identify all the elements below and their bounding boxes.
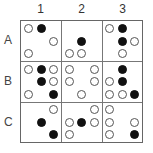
open-circle-icon [65,130,74,139]
filled-circle-icon [118,37,127,46]
filled-circle-icon [77,37,86,46]
open-circle-icon [130,37,139,46]
cell-a3 [102,21,143,62]
open-circle-icon [77,90,86,99]
open-circle-icon [65,118,74,127]
filled-circle-icon [49,130,58,139]
filled-circle-icon [37,65,46,74]
row-label-c: C [4,102,13,143]
filled-circle-icon [49,90,58,99]
open-circle-icon [49,77,58,86]
open-circle-icon [118,49,127,58]
cell-b3 [102,62,143,103]
filled-circle-icon [37,77,46,86]
cell-c1 [21,102,62,143]
cell-a2 [62,21,103,62]
open-circle-icon [105,24,114,33]
column-label-1: 1 [20,2,61,16]
cell-b1 [21,62,62,103]
open-circle-icon [105,130,114,139]
column-label-3: 3 [102,2,143,16]
open-circle-icon [118,90,127,99]
cell-a1 [21,21,62,62]
dot-grid [20,20,143,143]
filled-circle-icon [37,24,46,33]
open-circle-icon [24,24,33,33]
open-circle-icon [49,105,58,114]
open-circle-icon [65,65,74,74]
open-circle-icon [24,90,33,99]
row-label-a: A [4,20,12,61]
open-circle-icon [105,118,114,127]
filled-circle-icon [130,90,139,99]
open-circle-icon [90,77,99,86]
open-circle-icon [49,65,58,74]
filled-circle-icon [37,118,46,127]
open-circle-icon [49,37,58,46]
open-circle-icon [77,49,86,58]
open-circle-icon [90,118,99,127]
open-circle-icon [105,90,114,99]
open-circle-icon [90,65,99,74]
open-circle-icon [24,65,33,74]
filled-circle-icon [130,130,139,139]
open-circle-icon [105,105,114,114]
column-label-2: 2 [61,2,102,16]
open-circle-icon [90,105,99,114]
filled-circle-icon [118,24,127,33]
cell-b2 [62,62,103,103]
cell-c2 [62,102,103,143]
open-circle-icon [130,118,139,127]
row-label-b: B [4,61,12,102]
filled-circle-icon [77,118,86,127]
filled-circle-icon [118,77,127,86]
open-circle-icon [65,49,74,58]
filled-circle-icon [118,65,127,74]
open-circle-icon [65,77,74,86]
cell-c3 [102,102,143,143]
open-circle-icon [105,77,114,86]
open-circle-icon [24,49,33,58]
